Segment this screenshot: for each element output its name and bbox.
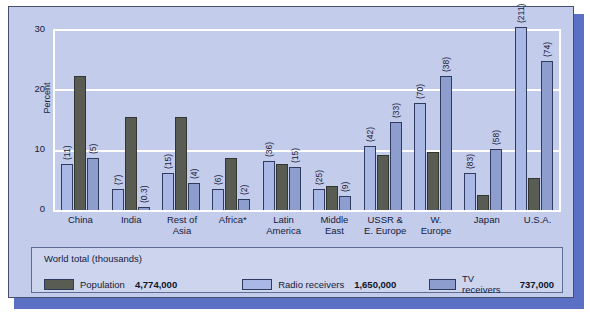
legend-title: World total (thousands) <box>44 253 142 264</box>
bar-population <box>377 155 389 210</box>
bar-slot: (70) <box>414 29 426 210</box>
bar-population <box>125 117 137 210</box>
bar-tv <box>541 61 553 210</box>
bar-slot <box>276 29 288 210</box>
figure-root: Percent 30 20 10 0 (11)(5)(7)(0.3)(15)(4… <box>0 0 590 317</box>
x-axis-label: LatinAmerica <box>258 214 309 236</box>
bar-radio <box>162 173 174 210</box>
bar-slot <box>225 29 237 210</box>
bar-slot: (38) <box>440 29 452 210</box>
legend-items: Population4,774,000Radio receivers1,650,… <box>44 273 554 295</box>
bar-group: (7)(0.3) <box>105 29 155 210</box>
bar-radio <box>212 189 224 210</box>
bar-slot: (211) <box>515 29 527 210</box>
bar-population <box>477 195 489 210</box>
bar-slot <box>175 29 187 210</box>
bar-radio <box>61 164 73 210</box>
bar-slot <box>125 29 137 210</box>
bar-tv <box>440 76 452 210</box>
bar-radio <box>112 189 124 210</box>
bar-groups: (11)(5)(7)(0.3)(15)(4)(6)(2)(36)(15)(25)… <box>55 29 559 210</box>
x-axis-label: Africa* <box>207 214 258 236</box>
legend-label: Radio receivers <box>278 279 344 290</box>
legend-label: Population <box>80 279 125 290</box>
bar-slot: (5) <box>87 29 99 210</box>
bar-population <box>74 76 86 210</box>
x-axis-label: Rest ofAsia <box>157 214 208 236</box>
legend-swatch <box>429 279 456 290</box>
bar-radio <box>364 146 376 210</box>
bar-group: (42)(33) <box>357 29 407 210</box>
bar-value-note: (11) <box>62 146 72 161</box>
legend-item: Radio receivers1,650,000 <box>242 279 429 290</box>
bar-group: (211)(74) <box>509 29 559 210</box>
legend-value: 1,650,000 <box>354 279 396 290</box>
bar-value-note: (9) <box>340 182 350 192</box>
bar-value-note: (15) <box>163 154 173 169</box>
bar-tv <box>339 196 351 210</box>
bar-population <box>225 158 237 210</box>
bar-slot <box>427 29 439 210</box>
figure-card: Percent 30 20 10 0 (11)(5)(7)(0.3)(15)(4… <box>8 6 574 298</box>
bar-value-note: (7) <box>113 174 123 184</box>
bar-population <box>326 186 338 210</box>
bar-value-note: (74) <box>542 41 552 56</box>
bar-radio <box>464 173 476 210</box>
x-axis-baseline <box>53 210 561 212</box>
bar-slot: (0.3) <box>138 29 150 210</box>
bar-population <box>528 178 540 210</box>
bar-value-note: (5) <box>88 144 98 154</box>
bar-population <box>427 152 439 210</box>
bar-value-note: (25) <box>314 170 324 185</box>
bar-slot: (36) <box>263 29 275 210</box>
legend-item: Population4,774,000 <box>44 279 242 290</box>
bar-radio <box>414 103 426 210</box>
legend-value: 737,000 <box>520 279 554 290</box>
bar-value-note: (33) <box>391 102 401 117</box>
bar-group: (25)(9) <box>307 29 357 210</box>
bar-slot <box>377 29 389 210</box>
bar-group: (6)(2) <box>206 29 256 210</box>
bar-tv <box>238 199 250 210</box>
bar-slot <box>326 29 338 210</box>
y-tick-label-20: 20 <box>19 83 45 94</box>
bar-value-note: (38) <box>441 57 451 72</box>
bar-radio <box>515 27 527 210</box>
bar-radio <box>263 161 275 210</box>
bar-slot: (2) <box>238 29 250 210</box>
y-tick-label-10: 10 <box>19 143 45 154</box>
x-axis-label: China <box>55 214 106 236</box>
bar-tv <box>289 167 301 210</box>
x-axis-label: India <box>106 214 157 236</box>
bar-group: (11)(5) <box>55 29 105 210</box>
bar-tv <box>390 122 402 210</box>
bar-tv <box>87 158 99 210</box>
bar-slot: (9) <box>339 29 351 210</box>
x-axis-label: MiddleEast <box>309 214 360 236</box>
bar-value-note: (4) <box>189 168 199 178</box>
x-axis-labels: ChinaIndiaRest ofAsiaAfrica*LatinAmerica… <box>55 214 563 236</box>
bar-value-note: (2) <box>239 185 249 195</box>
bar-slot: (15) <box>162 29 174 210</box>
x-axis-label: W.Europe <box>411 214 462 236</box>
bar-value-note: (83) <box>465 154 475 169</box>
bar-value-note: (42) <box>365 127 375 142</box>
bar-group: (83)(58) <box>458 29 508 210</box>
bar-group: (15)(4) <box>156 29 206 210</box>
x-axis-label: USSR &E. Europe <box>360 214 411 236</box>
legend-swatch <box>44 279 74 290</box>
bar-slot: (15) <box>289 29 301 210</box>
bar-radio <box>313 189 325 210</box>
bar-value-note: (211) <box>516 4 526 23</box>
bar-slot: (11) <box>61 29 73 210</box>
legend-swatch <box>242 279 272 290</box>
bar-tv <box>138 207 150 210</box>
bar-value-note: (15) <box>290 148 300 163</box>
x-axis-label: U.S.A. <box>512 214 563 236</box>
bar-value-note: (0.3) <box>139 185 149 202</box>
bar-slot <box>477 29 489 210</box>
bar-value-note: (6) <box>213 174 223 184</box>
y-axis-title: Percent <box>42 58 52 138</box>
bar-slot: (58) <box>490 29 502 210</box>
bar-value-note: (36) <box>264 142 274 157</box>
